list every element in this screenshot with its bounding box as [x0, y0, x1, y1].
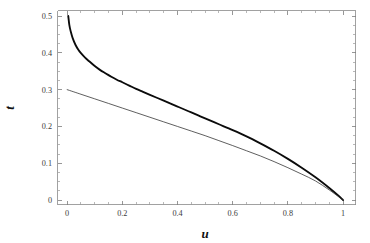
y-tick-label: 0.1: [42, 159, 52, 168]
x-tick-label: 0.8: [283, 209, 293, 218]
x-axis-label: u: [201, 226, 208, 241]
series-thin-curve: [67, 90, 343, 200]
x-tick-label: 0.2: [117, 209, 127, 218]
x-tick-label: 0.4: [172, 209, 182, 218]
x-tick-label: 0.6: [228, 209, 238, 218]
x-tick-label: 1: [341, 209, 345, 218]
chart-figure: 00.20.40.60.81 00.10.20.30.40.5 u t: [0, 0, 370, 243]
y-tick-label: 0: [48, 196, 52, 205]
y-tick-label: 0.5: [42, 12, 52, 21]
y-tick-label: 0.4: [42, 49, 52, 58]
plot-canvas: 00.20.40.60.81 00.10.20.30.40.5 u t: [0, 0, 370, 243]
y-axis-label: t: [2, 106, 17, 110]
plot-frame: [58, 11, 356, 205]
y-axis-ticks: [58, 16, 356, 200]
series-thick-curve: [68, 16, 343, 200]
x-axis-ticks: [67, 11, 343, 205]
y-tick-label: 0.2: [42, 122, 52, 131]
x-axis-tick-labels: 00.20.40.60.81: [65, 209, 345, 218]
data-series-group: [67, 16, 343, 200]
x-tick-label: 0: [65, 209, 69, 218]
y-tick-label: 0.3: [42, 86, 52, 95]
y-axis-tick-labels: 00.10.20.30.40.5: [42, 12, 52, 205]
